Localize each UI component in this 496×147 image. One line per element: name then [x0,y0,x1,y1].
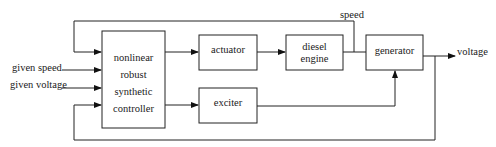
controller-label-line-1: nonlinear [114,52,154,63]
block-diagram: nonlinear robust synthetic controller ac… [0,0,496,147]
generator-block: generator [366,35,423,70]
given-voltage-label: given voltage [10,79,67,90]
controller-block: nonlinear robust synthetic controller [102,31,165,128]
speed-signal-label: speed [340,9,365,20]
diesel-engine-block: diesel engine [286,35,343,70]
voltage-output-label: voltage [457,46,488,57]
controller-label-line-4: controller [113,103,154,114]
actuator-block: actuator [199,35,257,70]
controller-label-line-2: robust [120,69,146,80]
exciter-block: exciter [199,88,257,123]
exciter-label: exciter [214,97,243,108]
diesel-engine-label-line-2: engine [301,53,329,64]
controller-label-line-3: synthetic [115,86,153,97]
given-speed-label: given speed [12,62,63,73]
generator-label: generator [375,45,415,56]
exciter-to-generator-arrow [257,71,395,106]
diesel-engine-label-line-1: diesel [302,41,327,52]
actuator-label: actuator [211,44,245,55]
